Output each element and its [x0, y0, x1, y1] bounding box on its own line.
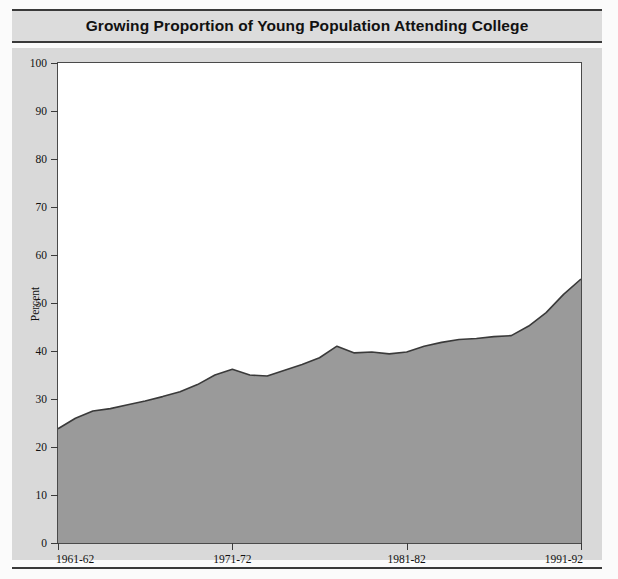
bottom-rule [12, 567, 602, 569]
x-tick-label: 1971-72 [213, 553, 251, 565]
y-tick-90: 90 [36, 105, 59, 117]
y-tick-label: 40 [36, 345, 52, 357]
y-tick-label: 0 [41, 537, 51, 549]
x-tick-label: 1981-82 [387, 553, 425, 565]
x-tick-mark [407, 543, 408, 550]
y-tick-label: 100 [30, 57, 51, 69]
y-tick-mark [51, 495, 58, 496]
y-tick-mark [51, 351, 58, 352]
y-tick-50: 50 [36, 297, 59, 309]
y-tick-mark [51, 447, 58, 448]
y-tick-80: 80 [36, 153, 59, 165]
x-tick-mark [232, 543, 233, 550]
x-tick-label: 1991-92 [545, 553, 583, 565]
y-tick-30: 30 [36, 393, 59, 405]
x-tick-mark [58, 543, 59, 550]
area-series [58, 63, 581, 543]
y-tick-label: 30 [36, 393, 52, 405]
y-tick-label: 80 [36, 153, 52, 165]
y-tick-20: 20 [36, 441, 59, 453]
y-tick-60: 60 [36, 249, 59, 261]
y-tick-mark [51, 111, 58, 112]
figure: Growing Proportion of Young Population A… [0, 0, 618, 579]
y-tick-mark [51, 159, 58, 160]
y-tick-label: 90 [36, 105, 52, 117]
y-tick-label: 50 [36, 297, 52, 309]
y-tick-mark [51, 207, 58, 208]
y-tick-label: 10 [36, 489, 52, 501]
y-tick-mark [51, 63, 58, 64]
y-tick-label: 60 [36, 249, 52, 261]
y-tick-70: 70 [36, 201, 59, 213]
y-tick-100: 100 [30, 57, 58, 69]
y-tick-mark [51, 255, 58, 256]
page-title: Growing Proportion of Young Population A… [86, 17, 529, 35]
y-tick-10: 10 [36, 489, 59, 501]
x-tick-label: 1961-62 [56, 553, 94, 565]
y-tick-0: 0 [41, 537, 58, 549]
y-tick-mark [51, 543, 58, 544]
chart-body: Percent 1009080706050403020100 1961-6219… [12, 48, 602, 560]
y-tick-40: 40 [36, 345, 59, 357]
plot-area: 1009080706050403020100 1961-621971-72198… [57, 62, 582, 544]
y-tick-label: 70 [36, 201, 52, 213]
y-tick-label: 20 [36, 441, 52, 453]
y-tick-mark [51, 399, 58, 400]
x-tick-mark [581, 543, 582, 550]
y-tick-mark [51, 303, 58, 304]
title-band: Growing Proportion of Young Population A… [12, 9, 602, 43]
